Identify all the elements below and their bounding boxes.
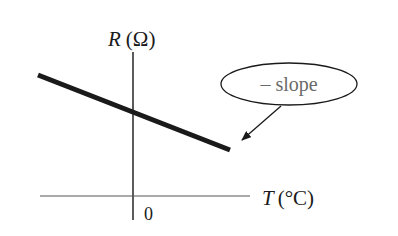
- origin-label: 0: [144, 204, 153, 224]
- slope-label: – slope: [259, 73, 317, 96]
- x-axis-label: T(°C): [262, 186, 314, 210]
- resistance-line: [38, 75, 230, 150]
- resistance-temperature-diagram: R(Ω) T(°C) 0 – slope: [0, 0, 398, 236]
- y-axis-label: R(Ω): [107, 27, 155, 51]
- slope-arrow: [242, 106, 281, 140]
